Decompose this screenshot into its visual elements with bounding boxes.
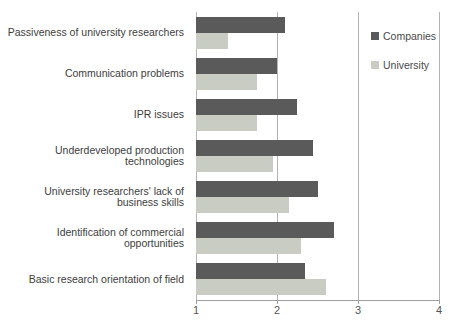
bar-university bbox=[196, 238, 301, 254]
bar-companies bbox=[196, 17, 285, 33]
bar-university bbox=[196, 74, 257, 90]
bar-group bbox=[196, 177, 439, 218]
legend-label: University bbox=[383, 59, 429, 71]
legend-item-university: University bbox=[371, 59, 436, 71]
category-label: Passiveness of university researchers bbox=[0, 12, 190, 53]
category-label: University researchers' lack of business… bbox=[0, 177, 190, 218]
bar-university bbox=[196, 33, 228, 49]
x-tick-label: 4 bbox=[436, 304, 442, 316]
legend-swatch-icon bbox=[371, 32, 379, 40]
legend-label: Companies bbox=[383, 30, 436, 42]
legend: CompaniesUniversity bbox=[371, 30, 436, 71]
x-axis-tick-labels: 1234 bbox=[196, 304, 439, 320]
category-label: Underdeveloped production technologies bbox=[0, 135, 190, 176]
x-tick-label: 1 bbox=[193, 304, 199, 316]
category-label: Basic research orientation of field bbox=[0, 259, 190, 300]
bar-university bbox=[196, 115, 257, 131]
bar-companies bbox=[196, 58, 277, 74]
bar-companies bbox=[196, 263, 305, 279]
bar-companies bbox=[196, 181, 318, 197]
bar-group bbox=[196, 218, 439, 259]
bar-university bbox=[196, 279, 326, 295]
bar-group bbox=[196, 94, 439, 135]
x-tick-label: 2 bbox=[274, 304, 280, 316]
category-label: Communication problems bbox=[0, 53, 190, 94]
category-label: Identification of commercial opportuniti… bbox=[0, 218, 190, 259]
category-labels: Passiveness of university researchersCom… bbox=[0, 12, 190, 300]
bar-group bbox=[196, 259, 439, 300]
x-tick-label: 3 bbox=[355, 304, 361, 316]
bar-university bbox=[196, 197, 289, 213]
gridline bbox=[439, 12, 440, 300]
bar-companies bbox=[196, 99, 297, 115]
legend-swatch-icon bbox=[371, 61, 379, 69]
category-label: IPR issues bbox=[0, 94, 190, 135]
bar-university bbox=[196, 156, 273, 172]
legend-item-companies: Companies bbox=[371, 30, 436, 42]
bar-companies bbox=[196, 140, 313, 156]
bar-group bbox=[196, 135, 439, 176]
bar-chart: Passiveness of university researchersCom… bbox=[0, 0, 461, 336]
bar-companies bbox=[196, 222, 334, 238]
